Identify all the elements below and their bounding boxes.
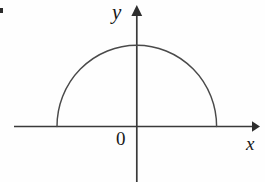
x-axis-arrowhead (252, 121, 260, 132)
x-axis-label: x (246, 134, 254, 153)
semicircle-figure: y x 0 (0, 0, 265, 182)
y-axis-arrowhead (131, 5, 142, 16)
figure-canvas (0, 0, 265, 182)
y-axis-label: y (112, 2, 121, 23)
origin-label: 0 (116, 129, 126, 148)
